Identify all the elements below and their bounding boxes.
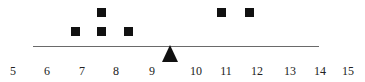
tick-label: 14 (314, 64, 326, 79)
tick-label: 10 (190, 64, 202, 79)
tick-label: 11 (220, 64, 232, 79)
fulcrum-triangle-icon (162, 45, 178, 62)
tick-label: 13 (284, 64, 296, 79)
tick-label: 15 (342, 64, 354, 79)
tick-label: 7 (79, 64, 85, 79)
tick-label: 12 (251, 64, 263, 79)
weight-square (124, 27, 133, 36)
tick-label: 8 (113, 64, 119, 79)
weight-square (245, 8, 254, 17)
weight-square (97, 27, 106, 36)
tick-label: 6 (44, 64, 50, 79)
tick-label: 9 (149, 64, 155, 79)
weight-square (97, 8, 106, 17)
weight-square (71, 27, 80, 36)
weight-square (217, 8, 226, 17)
tick-label: 5 (10, 64, 16, 79)
